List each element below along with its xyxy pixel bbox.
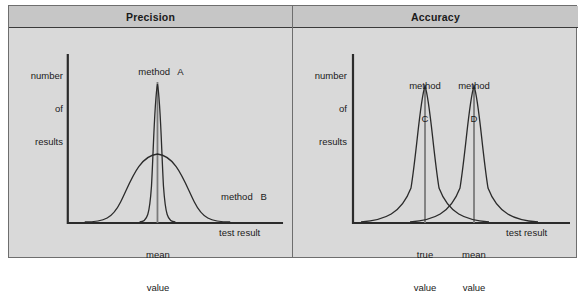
accuracy-true-value-tick-line-1: true [414,249,437,260]
precision-x-axis-label: test result [219,227,260,238]
precision-plot: number of results method A method B mean… [9,28,292,259]
accuracy-y-axis-label: number of results [293,48,347,169]
panel-accuracy-header: Accuracy [293,6,578,28]
method-c-label-line-1: method [409,80,441,91]
method-c-label: method C [409,58,441,146]
method-d-label-line-1: method [458,80,490,91]
precision-mean-value-tick-line-1: mean [146,249,170,260]
method-d-label-line-2: D [458,113,490,124]
accuracy-mean-value-tick-line-1: mean [462,249,486,260]
precision-y-axis-label-line-3: results [9,136,63,147]
precision-y-axis-label: number of results [9,48,63,169]
accuracy-y-axis-label-line-3: results [293,136,347,147]
method-c-label-line-2: C [409,113,441,124]
accuracy-y-axis-label-line-2: of [293,103,347,114]
accuracy-y-axis-label-line-1: number [293,70,347,81]
accuracy-mean-value-tick-line-2: value [462,282,486,293]
precision-mean-value-tick-line-2: value [146,282,170,293]
accuracy-x-axis-label: test result [506,227,547,238]
precision-y-axis-label-line-2: of [9,103,63,114]
panel-precision: Precision number of results method A [9,6,293,257]
method-b-label: method B [221,191,267,202]
method-a-label: method A [138,66,183,77]
panel-precision-header: Precision [9,6,292,28]
method-d-label: method D [458,58,490,146]
precision-y-axis-label-line-1: number [9,70,63,81]
accuracy-plot: number of results method C method D true… [293,28,578,259]
panel-accuracy-title: Accuracy [411,11,460,23]
accuracy-mean-value-tick: mean value [462,227,486,295]
panel-precision-title: Precision [126,11,175,23]
precision-mean-value-tick: mean value [146,227,170,295]
figure-container: Precision number of results method A [8,5,577,258]
accuracy-true-value-tick: true value [414,227,437,295]
accuracy-true-value-tick-line-2: value [414,282,437,293]
panel-accuracy: Accuracy number of results [293,6,578,257]
